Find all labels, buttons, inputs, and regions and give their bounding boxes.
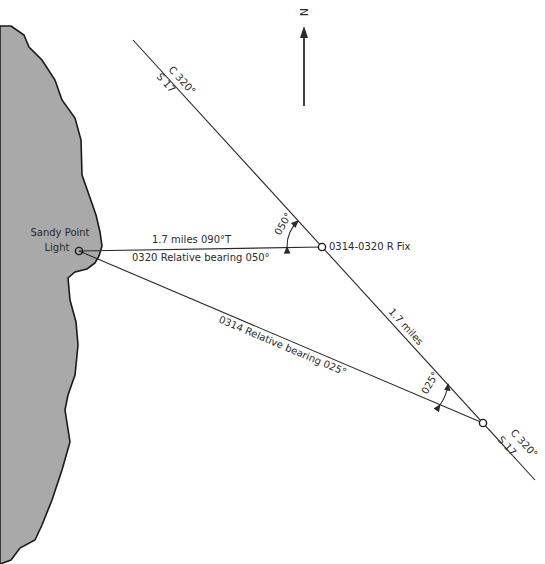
relative-bearing-0314-label: 0314 Relative bearing 025° [217,314,348,378]
bearing-distance-label: 1.7 miles 090°T [152,234,232,245]
north-arrow-icon: N [297,8,310,106]
relative-bearing-0320-label: 0320 Relative bearing 050° [132,252,270,263]
bearing-line-0320 [79,247,322,251]
landmark-name-line2: Light [45,242,70,253]
land-mass [0,26,102,564]
relative-bearing-fix-diagram: N Sandy Point Light C 320° S 17 C 320° S… [0,0,545,564]
fix-0320-icon [318,243,325,250]
position-0314-icon [479,419,486,426]
landmark-name-line1: Sandy Point [30,227,89,238]
run-distance-label: 1.7 miles [387,306,426,347]
angle-025-label: 025° [419,370,441,396]
angle-arc-025 [440,384,448,405]
north-label: N [297,8,310,16]
angle-050-label: 050° [272,211,294,237]
fix-label: 0314-0320 R Fix [329,241,411,252]
